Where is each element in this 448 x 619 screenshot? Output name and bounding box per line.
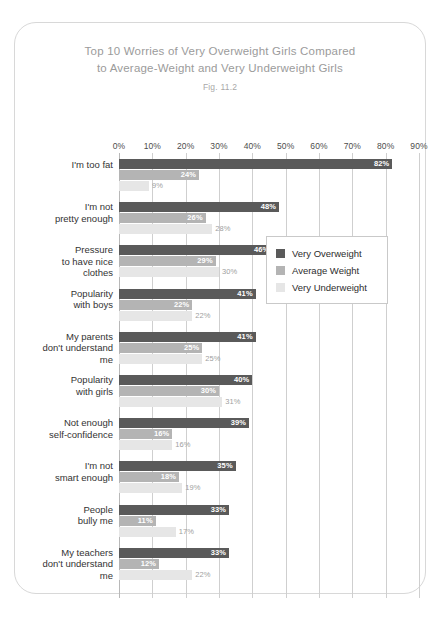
bar-row: 11% (119, 516, 419, 526)
bar-value-label: 17% (179, 527, 194, 537)
bar[interactable] (119, 311, 192, 321)
category-label: My parentsdon't understandme (21, 331, 119, 366)
legend-swatch-icon (276, 283, 285, 292)
bar-row: 18% (119, 472, 419, 482)
bar-row: 40% (119, 375, 419, 385)
bar-group: Peoplebully me33%11%17% (119, 505, 419, 538)
x-axis-tick-70: 70% (344, 141, 361, 151)
bar-value-label: 22% (195, 311, 210, 321)
chart-title-line-1: Top 10 Worries of Very Overweight Girls … (15, 43, 425, 60)
bar[interactable] (119, 202, 279, 212)
bar-group: I'm notpretty enough48%26%28% (119, 202, 419, 235)
bar-row: 9% (119, 181, 419, 191)
chart-plot-area: I'm too fat82%24%9%I'm notpretty enough4… (119, 157, 419, 598)
bar-value-label: 19% (185, 483, 200, 493)
bar-row: 25% (119, 343, 419, 353)
bar-value-label: 40% (232, 375, 249, 385)
bar[interactable] (119, 159, 392, 169)
bar-row: 35% (119, 461, 419, 471)
legend-item[interactable]: Very Underweight (276, 280, 379, 294)
bar[interactable] (119, 354, 202, 364)
bar[interactable] (119, 267, 219, 277)
legend-swatch-icon (276, 249, 285, 258)
bar-value-label: 29% (196, 256, 213, 266)
bar[interactable] (119, 570, 192, 580)
bar-group: My parentsdon't understandme41%25%25% (119, 332, 419, 365)
legend-item[interactable]: Average Weight (276, 263, 379, 277)
category-label: I'm notpretty enough (21, 201, 119, 224)
bar[interactable] (119, 245, 272, 255)
bar-group: I'm too fat82%24%9% (119, 159, 419, 192)
bar-value-label: 11% (136, 516, 153, 526)
chart-card: Top 10 Worries of Very Overweight Girls … (14, 22, 426, 594)
bar[interactable] (119, 527, 176, 537)
bar-value-label: 30% (199, 386, 216, 396)
bar-row: 12% (119, 559, 419, 569)
bar-value-label: 48% (259, 202, 276, 212)
bar-value-label: 30% (222, 267, 237, 277)
x-axis-tick-20: 20% (177, 141, 194, 151)
bar-value-label: 39% (229, 418, 246, 428)
legend-label: Very Overweight (292, 248, 362, 259)
x-axis-tick-labels: 0%10%20%30%40%50%60%70%80%90% (119, 141, 419, 155)
x-axis-tick-50: 50% (277, 141, 294, 151)
bar-row: 82% (119, 159, 419, 169)
x-axis-tick-40: 40% (244, 141, 261, 151)
bar-row: 22% (119, 570, 419, 580)
bar-row: 26% (119, 213, 419, 223)
bar-group: I'm notsmart enough35%18%19% (119, 461, 419, 494)
bar-value-label: 24% (179, 170, 196, 180)
bar-value-label: 26% (186, 213, 203, 223)
bar-row: 28% (119, 224, 419, 234)
category-label: I'm notsmart enough (21, 460, 119, 483)
chart-title-block: Top 10 Worries of Very Overweight Girls … (15, 43, 425, 92)
x-axis-tick-30: 30% (210, 141, 227, 151)
bar-row: 33% (119, 505, 419, 515)
legend-label: Very Underweight (292, 282, 367, 293)
bar[interactable] (119, 440, 172, 450)
bar-group: Popularitywith girls40%30%31% (119, 375, 419, 408)
bar-row: 22% (119, 311, 419, 321)
x-axis-tick-10: 10% (144, 141, 161, 151)
bar-row: 48% (119, 202, 419, 212)
bar-value-label: 12% (139, 559, 156, 569)
bar-value-label: 16% (175, 440, 190, 450)
bar-value-label: 31% (225, 397, 240, 407)
bar-row: 24% (119, 170, 419, 180)
bar[interactable] (119, 483, 182, 493)
bar-row: 39% (119, 418, 419, 428)
bar[interactable] (119, 397, 222, 407)
bar-row: 19% (119, 483, 419, 493)
legend-item[interactable]: Very Overweight (276, 246, 379, 260)
category-label: Not enoughself-confidence (21, 417, 119, 440)
bar-value-label: 41% (236, 332, 253, 342)
category-label: Popularitywith girls (21, 374, 119, 397)
bar-value-label: 9% (152, 181, 163, 191)
bar[interactable] (119, 224, 212, 234)
x-axis-tick-90: 90% (410, 141, 427, 151)
bar-row: 16% (119, 429, 419, 439)
gridline-90 (419, 153, 420, 598)
category-label: I'm too fat (21, 159, 119, 171)
bar-row: 16% (119, 440, 419, 450)
bar[interactable] (119, 181, 149, 191)
bar-row: 25% (119, 354, 419, 364)
bar-row: 17% (119, 527, 419, 537)
bar-row: 41% (119, 332, 419, 342)
x-axis-tick-0: 0% (113, 141, 126, 151)
bar-value-label: 16% (152, 429, 169, 439)
bar-group: Not enoughself-confidence39%16%16% (119, 418, 419, 451)
bar-value-label: 33% (209, 505, 226, 515)
bar-value-label: 35% (216, 461, 233, 471)
chart-title-line-2: to Average-Weight and Very Underweight G… (15, 60, 425, 77)
category-label: Popularitywith boys (21, 288, 119, 311)
chart-legend: Very OverweightAverage WeightVery Underw… (266, 236, 388, 304)
bar-group: My teachersdon't understandme33%12%22% (119, 548, 419, 581)
bar-value-label: 41% (236, 289, 253, 299)
x-axis-tick-80: 80% (377, 141, 394, 151)
bar-value-label: 25% (205, 354, 220, 364)
category-label: My teachersdon't understandme (21, 547, 119, 582)
bar-value-label: 33% (209, 548, 226, 558)
bar-value-label: 28% (215, 224, 230, 234)
bar-value-label: 22% (172, 300, 189, 310)
